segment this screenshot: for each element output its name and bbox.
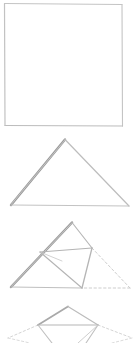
square-right-edge (122, 5, 123, 127)
square-bottom-edge (5, 126, 123, 127)
folding-instruction-sequence: Step 1 Step 2 Step 3 (0, 0, 140, 343)
square-left-edge (5, 4, 6, 126)
diagram-canvas: Step 1 Step 2 Step 3 (0, 0, 140, 343)
page-background (0, 0, 140, 343)
